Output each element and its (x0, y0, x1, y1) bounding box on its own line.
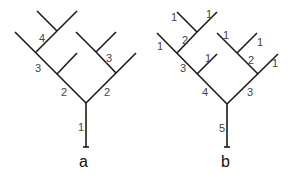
tree-b: 5 4 3 3 2 2 1 1 1 1 1 1 1 b (157, 8, 278, 170)
tree-b-left-main-edge (157, 33, 227, 104)
tree-b-caption: b (221, 153, 230, 170)
tree-a-label-left-lower: 2 (61, 86, 67, 98)
tree-a-label-right-upper: 3 (106, 52, 112, 64)
tree-a-top-leaf-right (57, 11, 77, 31)
tree-a-top-leaf-left (37, 11, 57, 31)
tree-diagram: 1 2 2 3 3 4 a 5 4 3 3 2 2 1 1 1 1 1 1 1 … (0, 0, 291, 174)
tree-a-left-side-branch (57, 53, 77, 74)
tree-a-right-leaf-left (76, 32, 96, 52)
tree-b-leaf-label: 1 (205, 52, 211, 64)
tree-a-label-left-middle: 3 (35, 62, 41, 74)
tree-a-label-root: 1 (78, 121, 84, 133)
tree-a: 1 2 2 3 3 4 a (15, 11, 136, 170)
tree-a-left-main-edge (15, 32, 86, 103)
tree-a-caption: a (79, 153, 88, 170)
tree-b-leaf-label: 1 (206, 8, 212, 20)
tree-b-top-leaf-left (177, 12, 197, 32)
tree-b-label-right-upper: 2 (248, 54, 254, 66)
tree-b-label-right-lower: 3 (247, 86, 253, 98)
tree-b-right-leaf-right (237, 33, 257, 53)
tree-b-leaf-label: 1 (257, 36, 263, 48)
tree-a-label-right-lower: 2 (104, 86, 110, 98)
tree-b-leaf-label: 1 (157, 40, 163, 52)
tree-b-label-left-lower: 4 (202, 86, 208, 98)
tree-b-label-left-middle: 3 (180, 62, 186, 74)
tree-b-leaf-label: 1 (272, 57, 278, 69)
tree-b-label-root: 5 (219, 122, 225, 134)
tree-a-right-leaf-right (96, 32, 116, 52)
tree-a-label-left-top: 4 (39, 32, 45, 44)
tree-b-label-left-top: 2 (182, 34, 188, 46)
tree-b-leaf-label: 1 (171, 11, 177, 23)
tree-b-leaf-label: 1 (223, 29, 229, 41)
